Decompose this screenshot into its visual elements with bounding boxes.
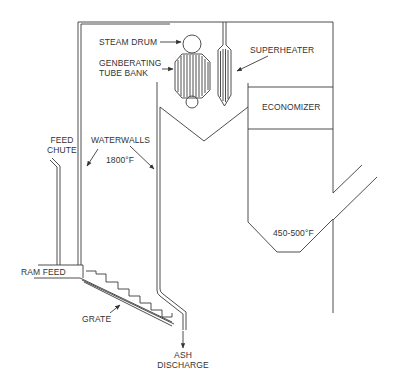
flue-outlet: [333, 165, 377, 220]
steam-drum-shape: [183, 35, 201, 53]
ash-discharge-label-line1: ASH: [166, 350, 200, 360]
generating-tube-bank-shape: [175, 54, 210, 98]
boiler-diagram: STEAM DRUM GENBERATING TUBE BANK SUPERHE…: [0, 0, 398, 370]
furnace-temp-label: 1800°F: [106, 155, 134, 165]
grate-label: GRATE: [82, 314, 111, 324]
grate-arrow: [110, 305, 120, 313]
ash-discharge-label-line2: DISCHARGE: [155, 360, 211, 370]
steam-drum-label: STEAM DRUM: [99, 37, 157, 47]
v-hopper: [160, 107, 248, 141]
stepped-grate: [86, 271, 172, 317]
ram-feed-label: RAM FEED: [21, 267, 66, 277]
feed-chute-label-line2: CHUTE: [43, 145, 81, 155]
tube-bank-label-line2: TUBE BANK: [99, 68, 148, 78]
economizer-label: ECONOMIZER: [262, 102, 321, 112]
superheater-label: SUPERHEATER: [250, 45, 314, 55]
exit-temp-label: 450-500°F: [273, 228, 314, 238]
inner-waterwall: [157, 82, 186, 330]
waterwall-arrow-left: [87, 149, 98, 166]
superheater-shape: [218, 22, 231, 106]
boiler-schematic-drawing: [0, 0, 398, 370]
feed-chute-shape: [50, 158, 60, 265]
feed-chute-label-line1: FEED: [45, 135, 79, 145]
tube-bank-label-line1: GENBERATING: [99, 58, 161, 68]
superheater-arrow: [237, 56, 268, 71]
waterwalls-label: WATERWALLS: [91, 135, 150, 145]
